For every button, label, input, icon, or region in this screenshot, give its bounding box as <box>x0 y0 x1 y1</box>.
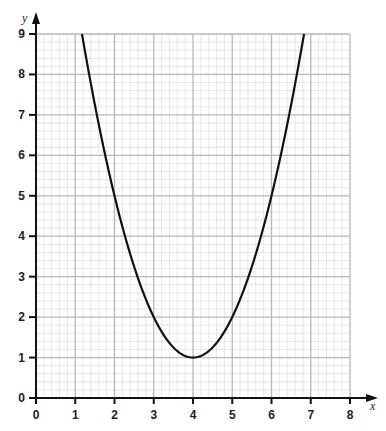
x-tick-label: 1 <box>72 408 79 422</box>
x-tick-label: 6 <box>268 408 275 422</box>
y-tick-label: 1 <box>18 351 25 365</box>
x-tick-label: 5 <box>229 408 236 422</box>
y-axis-label: y <box>21 11 28 25</box>
x-tick-label: 3 <box>150 408 157 422</box>
y-tick-label: 4 <box>18 229 25 243</box>
x-tick-label: 4 <box>190 408 197 422</box>
y-tick-label: 6 <box>18 148 25 162</box>
y-tick-label: 3 <box>18 270 25 284</box>
parabola-chart: 0123456780123456789 x y <box>0 0 386 431</box>
y-tick-label: 9 <box>18 27 25 41</box>
x-tick-label: 0 <box>33 408 40 422</box>
y-tick-label: 0 <box>18 391 25 405</box>
y-tick-label: 7 <box>18 108 25 122</box>
axes <box>29 12 378 404</box>
y-tick-label: 2 <box>18 310 25 324</box>
y-tick-label: 5 <box>18 189 25 203</box>
tick-labels: 0123456780123456789 <box>18 27 353 422</box>
x-axis-label: x <box>369 399 376 413</box>
x-tick-label: 7 <box>307 408 314 422</box>
x-tick-label: 8 <box>347 408 354 422</box>
x-tick-label: 2 <box>111 408 118 422</box>
y-tick-label: 8 <box>18 67 25 81</box>
